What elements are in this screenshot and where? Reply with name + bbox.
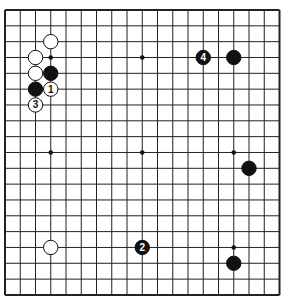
move-number-label: 4 xyxy=(200,52,206,63)
white-stone xyxy=(44,240,58,254)
star-point xyxy=(231,150,236,155)
white-stone-1: 1 xyxy=(44,82,58,96)
go-board: 1342 xyxy=(0,0,283,306)
black-stone-4: 4 xyxy=(196,50,210,64)
move-number-label: 2 xyxy=(139,242,145,253)
star-point xyxy=(48,150,53,155)
black-stone xyxy=(227,50,241,64)
white-stone xyxy=(28,50,42,64)
star-point xyxy=(140,150,145,155)
white-stone xyxy=(44,34,58,48)
black-stone xyxy=(28,82,42,96)
white-stone xyxy=(28,66,42,80)
star-point xyxy=(231,245,236,250)
move-number-label: 1 xyxy=(48,84,54,95)
star-point xyxy=(140,55,145,60)
move-number-label: 3 xyxy=(33,99,39,110)
white-stone-3: 3 xyxy=(28,98,42,112)
star-point xyxy=(48,55,53,60)
black-stone xyxy=(44,66,58,80)
black-stone xyxy=(227,256,241,270)
black-stone xyxy=(242,161,256,175)
black-stone-2: 2 xyxy=(135,240,149,254)
